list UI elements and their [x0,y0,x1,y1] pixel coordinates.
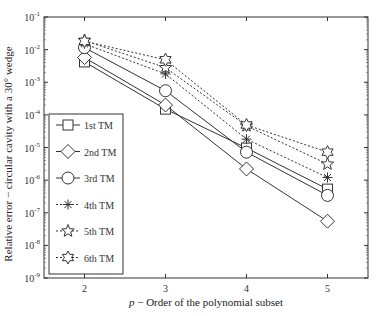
x-axis-label: p − Order of the polynomial subset [44,296,368,308]
y-tick-label: 10-3 [24,75,40,88]
circle-marker [62,172,74,184]
y-tick-label: 10-9 [24,271,40,284]
chart-canvas: 10-910-810-710-610-510-410-310-210-12345… [0,0,379,316]
legend-item: 1st TM [56,120,113,131]
diamond-marker [321,214,335,228]
legend-label: 1st TM [84,120,113,131]
y-tick-label: 10-5 [24,141,40,154]
x-axis-label-text: − Order of the polynomial subset [134,296,283,308]
diamond-marker [240,162,254,176]
legend-label: 2nd TM [84,147,116,158]
y-tick-label: 10-6 [24,173,40,186]
legend-label: 5th TM [84,226,114,237]
legend-label: 3rd TM [84,173,115,184]
legend-box [49,114,123,274]
y-tick-label: 10-2 [24,43,40,56]
y-tick-label: 10-4 [24,108,40,121]
x-tick-label: 5 [325,283,330,294]
legend-label: 6th TM [84,253,114,264]
x-tick-label: 4 [244,283,249,294]
y-tick-label: 10-8 [24,238,40,251]
hexagram-marker [322,146,333,159]
y-axis-label: Relative error − circular cavity with a … [2,34,14,274]
circle-marker [160,85,172,97]
x-tick-label: 3 [163,283,168,294]
legend: 1st TM2nd TM3rd TM4th TM5th TM6th TM [49,114,123,274]
legend-label: 4th TM [84,200,114,211]
legend-item: 3rd TM [56,172,115,184]
asterisk-marker [63,200,73,210]
y-tick-label: 10-1 [24,10,40,23]
asterisk-marker [323,173,333,183]
y-tick-label: 10-7 [24,206,40,219]
hexagram-marker [160,53,171,66]
x-tick-label: 2 [82,283,87,294]
circle-marker [241,146,253,158]
circle-marker [322,189,334,201]
asterisk-marker [242,134,252,144]
square-marker [63,120,73,130]
